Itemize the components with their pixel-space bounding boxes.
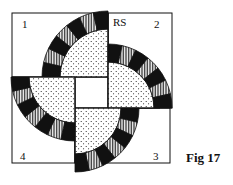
quarter-rings — [11, 11, 172, 172]
quarter-piece-3 — [75, 108, 139, 172]
figure-caption: Fig 17 — [186, 150, 221, 165]
label-rs: RS — [113, 16, 126, 28]
label-quadrant-4: 4 — [20, 150, 26, 162]
label-quadrant-1: 1 — [22, 18, 28, 30]
quarter-piece-1 — [42, 11, 108, 77]
label-quadrant-3: 3 — [153, 150, 159, 162]
label-quadrant-2: 2 — [154, 18, 160, 30]
quarter-piece-2 — [108, 44, 172, 108]
pinwheel-diagram: 1 RS 2 3 4 Fig 17 — [0, 0, 233, 185]
quarter-piece-4 — [11, 77, 75, 141]
